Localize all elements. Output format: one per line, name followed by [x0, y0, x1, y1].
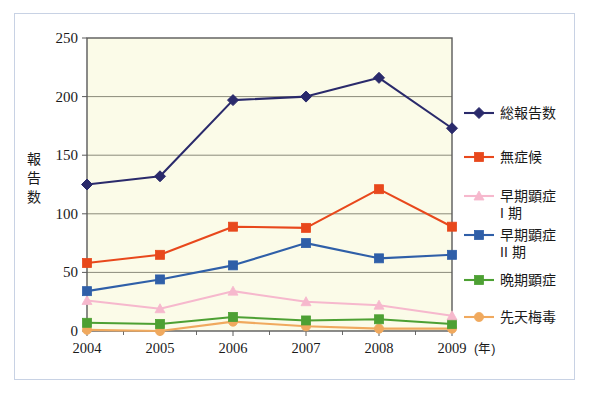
- x-axis-unit-label: (年): [474, 342, 495, 356]
- legend-label-3-0: 早期顕症: [500, 227, 556, 243]
- x-axis-tick-labels: 200420052006200720082009: [73, 340, 467, 356]
- y-tick-label-250: 250: [56, 30, 79, 46]
- legend-marker-5: [474, 312, 483, 321]
- data-point-1-3: [302, 223, 311, 232]
- chart-page: 250200150100500 報告数 20042005200620072008…: [0, 0, 591, 395]
- legend-marker-0: [474, 108, 485, 119]
- chart-svg: 250200150100500 報告数 20042005200620072008…: [0, 0, 591, 395]
- legend-entry-2[interactable]: 早期顕症I 期: [464, 188, 556, 221]
- legend-marker-1: [475, 153, 484, 162]
- legend-entry-1[interactable]: 無症候: [464, 149, 542, 165]
- y-tick-label-0: 0: [71, 323, 79, 339]
- x-tick-label-2007: 2007: [292, 340, 321, 356]
- x-tick-label-2004: 2004: [73, 340, 103, 356]
- legend-marker-3: [475, 231, 484, 240]
- data-point-4-1: [156, 319, 165, 328]
- legend-entry-0[interactable]: 総報告数: [464, 105, 556, 121]
- legend-entry-4[interactable]: 晩期顕症: [464, 272, 556, 288]
- y-tick-label-100: 100: [56, 206, 79, 222]
- data-point-1-2: [229, 222, 238, 231]
- legend-marker-4: [475, 276, 484, 285]
- x-tick-label-2006: 2006: [219, 340, 248, 356]
- data-point-4-5: [448, 319, 457, 328]
- x-tick-label-2005: 2005: [146, 340, 175, 356]
- legend-label-1-0: 無症候: [500, 149, 542, 165]
- y-tick-label-200: 200: [56, 89, 79, 105]
- legend-label-2-1: I 期: [500, 205, 522, 221]
- data-point-4-3: [302, 316, 311, 325]
- x-axis-unit-label-text: (年): [474, 342, 495, 356]
- legend-label-5-0: 先天梅毒: [500, 309, 556, 325]
- data-point-4-0: [83, 318, 92, 327]
- legend-label-0-0: 総報告数: [500, 105, 556, 121]
- y-axis-title-char-2: 数: [27, 189, 41, 205]
- data-point-3-0: [83, 287, 92, 296]
- x-tick-label-2009: 2009: [438, 340, 467, 356]
- legend-label-4-0: 晩期顕症: [500, 272, 556, 288]
- legend-entry-3[interactable]: 早期顕症II 期: [464, 227, 556, 260]
- y-tick-label-50: 50: [63, 264, 78, 280]
- data-point-3-5: [448, 250, 457, 259]
- y-tick-label-150: 150: [56, 147, 79, 163]
- chart-legend: 総報告数無症候早期顕症I 期早期顕症II 期晩期顕症先天梅毒: [464, 105, 556, 325]
- data-point-5-4: [374, 324, 383, 333]
- plot-area-background: [87, 38, 452, 331]
- line-chart: 250200150100500 報告数 20042005200620072008…: [0, 0, 591, 395]
- data-point-3-3: [302, 239, 311, 248]
- data-point-1-4: [375, 185, 384, 194]
- data-point-1-0: [83, 259, 92, 268]
- data-point-3-2: [229, 261, 238, 270]
- data-point-3-4: [375, 254, 384, 263]
- legend-label-2-0: 早期顕症: [500, 188, 556, 204]
- x-tick-label-2008: 2008: [365, 340, 394, 356]
- y-axis-title: 報告数: [27, 151, 41, 205]
- data-point-3-1: [156, 275, 165, 284]
- y-axis-title-char-1: 告: [27, 170, 41, 186]
- data-point-1-1: [156, 250, 165, 259]
- y-axis-title-char-0: 報: [27, 151, 41, 167]
- data-point-1-5: [448, 222, 457, 231]
- legend-entry-5[interactable]: 先天梅毒: [464, 309, 556, 325]
- legend-label-3-1: II 期: [500, 244, 526, 260]
- data-point-4-4: [375, 315, 384, 324]
- data-point-4-2: [229, 312, 238, 321]
